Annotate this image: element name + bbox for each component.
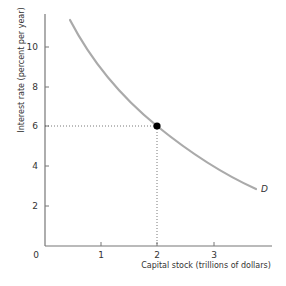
y-tick-label-10: 10 (27, 42, 39, 52)
origin-label: 0 (33, 250, 39, 260)
y-axis-title: Interest rate (percent per year) (17, 7, 26, 132)
x-axis-title: Capital stock (trillions of dollars) (141, 261, 271, 270)
x-tick-label-3: 3 (211, 250, 217, 260)
x-tick-label-1: 1 (98, 250, 104, 260)
demand-for-capital-chart: 10 8 6 4 2 0 1 2 3 Capital stock (trilli… (0, 0, 286, 286)
x-tick-label-2: 2 (154, 250, 160, 260)
y-tick-label-4: 4 (32, 161, 38, 171)
y-tick-label-6: 6 (32, 121, 38, 131)
equilibrium-point (153, 122, 160, 129)
y-tick-label-2: 2 (32, 201, 38, 211)
y-tick-label-8: 8 (32, 82, 38, 92)
curve-label-d: D (261, 184, 268, 194)
demand-curve (70, 20, 256, 189)
